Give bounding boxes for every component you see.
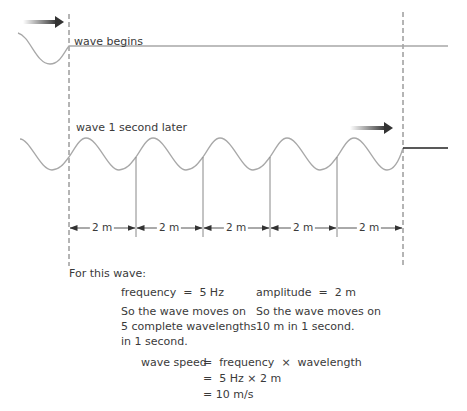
- wave-later-label: wave 1 second later: [76, 121, 187, 134]
- wavelength-label: 2 m: [224, 221, 248, 233]
- wavelength-label: 2 m: [157, 221, 181, 233]
- equation-rhs: = frequency × wavelength: [203, 355, 362, 370]
- motion-arrow-icon: [23, 16, 64, 28]
- amplitude-note-line2: 10 m in 1 second.: [256, 319, 354, 334]
- equation-substitution: = 5 Hz × 2 m: [203, 371, 281, 386]
- frequency-note-line1: So the wave moves on: [121, 304, 246, 319]
- wavelength-label: 2 m: [291, 221, 315, 233]
- frequency-note-line3: in 1 second.: [121, 334, 188, 349]
- explanation-intro: For this wave:: [69, 266, 146, 281]
- amplitude-value: amplitude = 2 m: [256, 285, 356, 300]
- frequency-note-line2: 5 complete wavelengths: [121, 319, 256, 334]
- wavelength-label: 2 m: [90, 221, 114, 233]
- amplitude-note-line1: So the wave moves on: [256, 304, 381, 319]
- wave-diagram: [0, 0, 467, 411]
- equation-lhs: wave speed: [141, 355, 207, 370]
- wave-begins-label: wave begins: [74, 35, 143, 48]
- wavelength-label: 2 m: [357, 221, 381, 233]
- travelled-wave: [20, 138, 403, 170]
- motion-arrow-icon: [350, 122, 393, 134]
- frequency-value: frequency = 5 Hz: [121, 285, 224, 300]
- equation-result: = 10 m/s: [203, 387, 253, 402]
